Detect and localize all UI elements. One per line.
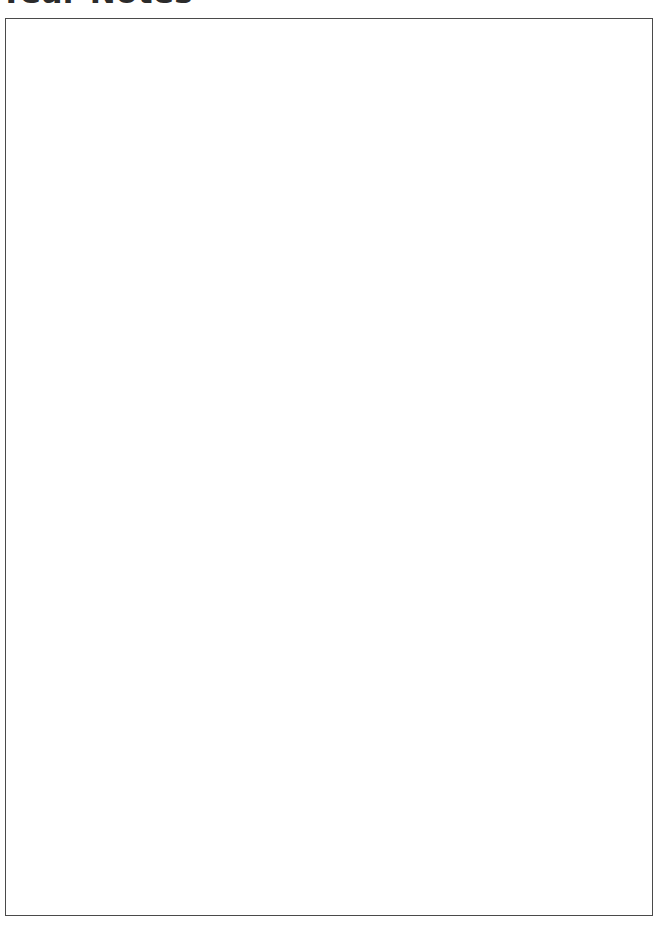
notes-writing-surface[interactable] [6, 19, 652, 915]
notes-area[interactable] [5, 18, 653, 916]
page-title: Year Notes [0, 0, 193, 9]
document-page: Year Notes [0, 0, 668, 927]
